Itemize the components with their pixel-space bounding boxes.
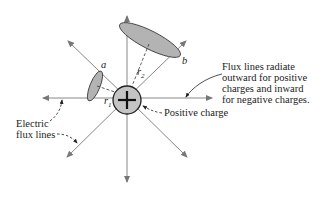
label-positive-charge: Positive charge	[164, 107, 228, 118]
label-electric: Electric	[16, 118, 49, 129]
label-r1: r1	[104, 95, 112, 111]
note-line-1: Flux lines radiate	[222, 61, 310, 72]
note-pointer	[186, 74, 222, 97]
note-block: Flux lines radiate outward for positive …	[222, 61, 310, 105]
label-flux-lines: flux lines	[16, 129, 55, 140]
electric-pointer	[50, 100, 62, 121]
label-b: b	[182, 55, 187, 66]
label-r2: r2	[137, 66, 145, 82]
note-line-4: for negative charges.	[222, 94, 310, 105]
note-line-3: charges and inward	[222, 83, 310, 94]
label-a: a	[101, 59, 106, 70]
flux-lines-pointer	[57, 134, 77, 143]
surface-b	[116, 17, 185, 64]
note-line-2: outward for positive	[222, 72, 310, 83]
positive-charge-pointer	[143, 106, 162, 113]
